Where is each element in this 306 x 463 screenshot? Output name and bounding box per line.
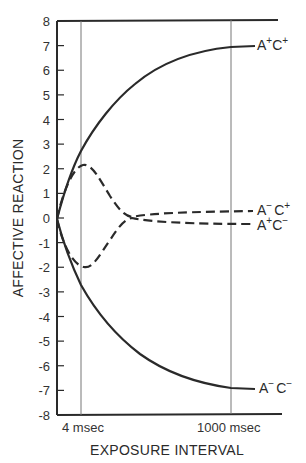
y-tick-label: 2: [43, 162, 50, 177]
y-ticks: 876543210-1-2-3-4-5-6-7-8: [38, 14, 64, 423]
y-tick-label: 8: [43, 14, 50, 29]
x-tick-4msec: 4 msec: [62, 420, 104, 435]
affective-reaction-chart: 876543210-1-2-3-4-5-6-7-8 A+C+ A−C+ A+C−…: [0, 0, 306, 463]
x-tick-1000msec: 1000 msec: [197, 420, 261, 435]
y-tick-label: -2: [38, 260, 50, 275]
y-tick-label: 0: [43, 211, 50, 226]
y-tick-label: 6: [43, 63, 50, 78]
y-tick-label: 5: [43, 88, 50, 103]
y-tick-label: -7: [38, 383, 50, 398]
y-tick-label: 1: [43, 186, 50, 201]
curve-a-plus-c-minus: [57, 218, 253, 267]
curve-a-plus-c-plus: [57, 46, 255, 219]
top-border: [57, 20, 278, 21]
curve-a-minus-c-plus: [57, 165, 253, 219]
y-tick-label: -4: [38, 310, 50, 325]
label-a-minus-c-minus: A−C−: [259, 378, 292, 396]
y-tick-label: -8: [38, 408, 50, 423]
y-tick-label: -5: [38, 334, 50, 349]
y-axis-title: AFFECTIVE REACTION: [10, 139, 26, 298]
x-axis-title: EXPOSURE INTERVAL: [90, 442, 244, 458]
y-tick-label: -1: [38, 236, 50, 251]
y-tick-label: 4: [43, 113, 50, 128]
y-tick-label: 7: [43, 39, 50, 54]
label-a-plus-c-plus: A+C+: [257, 35, 288, 53]
y-tick-label: -3: [38, 285, 50, 300]
y-tick-label: 3: [43, 137, 50, 152]
y-tick-label: -6: [38, 359, 50, 374]
label-a-plus-c-minus: A+C−: [257, 215, 288, 233]
curve-a-minus-c-minus: [57, 219, 255, 389]
x-axis: [57, 414, 282, 415]
